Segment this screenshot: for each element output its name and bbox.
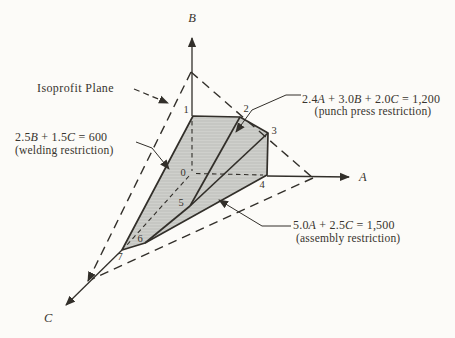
assembly-equation: 5.0A + 2.5C = 1,500	[293, 218, 395, 232]
isoprofit-plane-label: Isoprofit Plane	[37, 81, 114, 95]
welding-label-leader-arrow	[136, 142, 169, 169]
feasible-region-polygon	[122, 116, 268, 250]
vertex-label-5: 5	[178, 197, 183, 208]
vertex-label-3: 3	[271, 125, 276, 136]
vertex-label-7: 7	[117, 251, 122, 262]
punch-press-equation: 2.4A + 3.0B + 2.0C = 1,200	[302, 92, 440, 106]
lp-feasible-region-diagram: B A C Isoprofit Plane 2.4A + 3.0B + 2.0C…	[0, 0, 455, 338]
isoprofit-label-leader-arrow	[134, 89, 168, 103]
a-axis	[267, 176, 349, 177]
b-axis-label: B	[188, 11, 196, 25]
welding-restriction-name: (welding restriction)	[15, 144, 113, 157]
a-axis-label: A	[358, 170, 367, 184]
vertex-label-2: 2	[243, 103, 248, 114]
lp-figure-page: B A C Isoprofit Plane 2.4A + 3.0B + 2.0C…	[0, 0, 455, 338]
vertex-label-6: 6	[137, 233, 142, 244]
assembly-restriction-name: (assembly restriction)	[296, 232, 400, 245]
welding-equation: 2.5B + 1.5C = 600	[15, 130, 107, 144]
vertex-label-4: 4	[259, 179, 265, 190]
c-axis-label: C	[44, 311, 53, 325]
vertex-label-0: 0	[180, 167, 185, 178]
punch-press-restriction-name: (punch press restriction)	[315, 105, 432, 118]
vertex-label-1: 1	[183, 104, 188, 115]
